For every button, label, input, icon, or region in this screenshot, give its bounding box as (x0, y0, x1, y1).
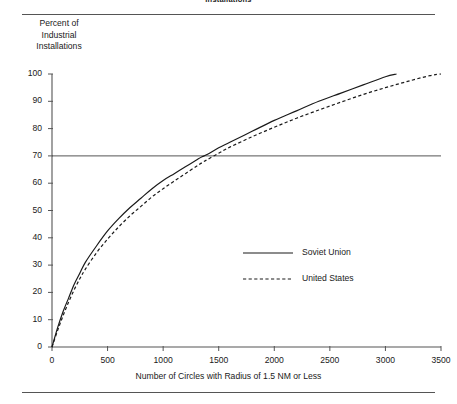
plot-area (0, 0, 457, 404)
series-line-soviet-union (52, 74, 397, 347)
y-axis-tick-label: 80 (12, 123, 42, 133)
y-axis-tick-label: 20 (12, 286, 42, 296)
x-axis-tick-label: 1000 (138, 355, 188, 365)
y-axis-tick-label: 50 (12, 205, 42, 215)
y-axis-tick-label: 30 (12, 259, 42, 269)
x-axis-tick-label: 500 (83, 355, 133, 365)
x-axis-tick-label: 3000 (360, 355, 410, 365)
y-axis-tick-label: 60 (12, 177, 42, 187)
x-axis-tick-label: 1500 (194, 355, 244, 365)
legend-swatches (243, 253, 293, 279)
y-axis-tick-label: 70 (12, 150, 42, 160)
legend-label-soviet-union: Soviet Union (302, 247, 351, 257)
legend-label-united-states: United States (302, 273, 354, 283)
x-axis-tick-label: 3500 (416, 355, 457, 365)
chart-figure: Installations Percent of Industrial Inst… (0, 0, 457, 404)
axes (52, 74, 441, 347)
x-axis-title: Number of Circles with Radius of 1.5 NM … (0, 371, 457, 381)
y-axis-tick-label: 40 (12, 232, 42, 242)
series-line-united-states (52, 74, 441, 347)
y-axis-tick-label: 10 (12, 314, 42, 324)
y-axis-tick-label: 90 (12, 95, 42, 105)
y-axis-tick-label: 0 (12, 341, 42, 351)
x-axis-tick-label: 2500 (305, 355, 355, 365)
data-series (52, 74, 441, 347)
x-axis-tick-label: 2000 (249, 355, 299, 365)
y-axis-tick-label: 100 (12, 68, 42, 78)
x-axis-tick-label: 0 (27, 355, 77, 365)
